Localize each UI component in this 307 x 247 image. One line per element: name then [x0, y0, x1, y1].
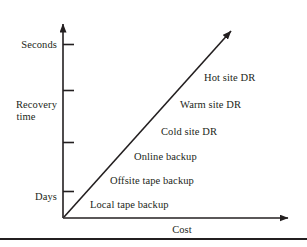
- tier-label-hot-site-dr: Hot site DR: [204, 72, 255, 84]
- y-label-recovery-time-line2: time: [0, 111, 57, 124]
- tier-label-offsite-tape-backup: Offsite tape backup: [110, 175, 194, 187]
- y-label-seconds: Seconds: [21, 39, 57, 51]
- trend-arrow: [64, 31, 231, 217]
- bottom-divider: [0, 238, 307, 240]
- diagram-figure: Seconds Recovery time Days Cost Hot site…: [0, 0, 307, 247]
- x-label-cost: Cost: [142, 224, 222, 236]
- y-label-recovery-time-line1: Recovery: [0, 99, 57, 112]
- y-label-days: Days: [35, 191, 57, 203]
- tier-label-online-backup: Online backup: [134, 151, 197, 163]
- tier-label-local-tape-backup: Local tape backup: [90, 199, 169, 211]
- tier-label-warm-site-dr: Warm site DR: [180, 99, 241, 111]
- tier-label-cold-site-dr: Cold site DR: [161, 126, 217, 138]
